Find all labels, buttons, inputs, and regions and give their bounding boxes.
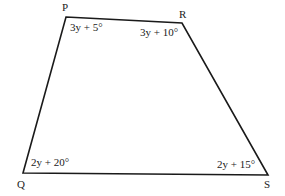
quadrilateral-diagram: P3y + 5°R3y + 10°S2y + 15°Q2y + 20° <box>0 0 285 196</box>
angle-label-r: 3y + 10° <box>140 26 178 38</box>
angle-label-p: 3y + 5° <box>70 21 103 33</box>
vertex-label-p: P <box>62 1 68 13</box>
vertex-label-q: Q <box>17 178 25 190</box>
vertex-label-s: S <box>264 178 270 190</box>
quadrilateral-pqrs <box>23 17 268 175</box>
angle-label-s: 2y + 15° <box>217 158 255 170</box>
vertex-label-r: R <box>179 8 187 20</box>
angle-label-q: 2y + 20° <box>31 156 69 168</box>
